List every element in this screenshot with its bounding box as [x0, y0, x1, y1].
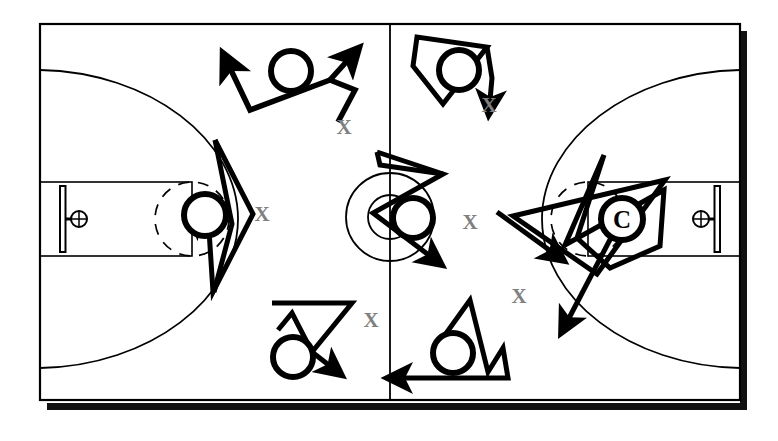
left-hoop-icon — [65, 211, 87, 227]
player-bottom-left[interactable] — [273, 337, 313, 377]
player-top-right[interactable] — [439, 50, 479, 90]
defender-x1[interactable]: X — [336, 115, 351, 139]
defender-x2-label: X — [481, 93, 496, 117]
player-center[interactable] — [393, 198, 433, 238]
defender-x1-label: X — [336, 115, 351, 139]
court-diagram: C X X X X X X — [0, 0, 778, 441]
defender-x3-label: X — [254, 202, 269, 226]
right-backboard — [715, 186, 721, 252]
defender-x2[interactable]: X — [481, 93, 496, 117]
player-bottom-right[interactable] — [433, 333, 473, 373]
defender-x5[interactable]: X — [363, 308, 378, 332]
player-center-right[interactable]: C — [601, 198, 643, 240]
right-hoop-icon — [693, 211, 715, 227]
left-backboard — [60, 186, 66, 252]
player-top-left[interactable] — [271, 51, 311, 91]
diagram-canvas: Basketball Full-Court Play Diagram Full … — [0, 0, 778, 441]
player-left-post[interactable] — [184, 194, 226, 236]
defender-x4[interactable]: X — [462, 210, 477, 234]
defender-x6-label: X — [511, 284, 526, 308]
player-center-right-label: C — [613, 206, 631, 233]
defender-x3[interactable]: X — [254, 202, 269, 226]
defender-x5-label: X — [363, 308, 378, 332]
defender-x4-label: X — [462, 210, 477, 234]
defender-x6[interactable]: X — [511, 284, 526, 308]
